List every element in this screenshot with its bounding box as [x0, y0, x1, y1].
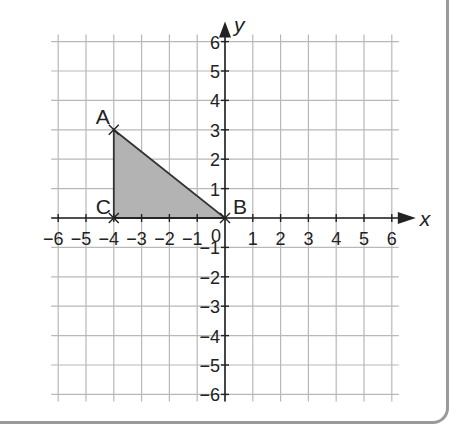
y-tick-label: −6: [199, 385, 220, 405]
point-label-c: C: [96, 195, 111, 218]
y-tick-label: −3: [199, 297, 220, 317]
x-tick-label: 1: [248, 229, 258, 249]
y-tick-label: 5: [210, 62, 220, 82]
y-tick-label: −2: [199, 268, 220, 288]
x-tick-label: −5: [71, 229, 92, 249]
point-label-a: A: [96, 105, 110, 128]
x-tick-label: −2: [154, 229, 175, 249]
point-label-b: B: [233, 195, 247, 218]
y-tick-label: 4: [210, 91, 220, 111]
y-tick-label: 3: [210, 121, 220, 141]
tick-labels: −6−5−4−3−2−11234560654321−1−2−3−4−5−6: [43, 33, 397, 406]
y-tick-label: −1: [199, 238, 220, 258]
x-axis-arrow-icon: [398, 212, 416, 224]
y-tick-label: 6: [210, 33, 220, 53]
x-tick-label: 5: [359, 229, 369, 249]
coordinate-plane: xy −6−5−4−3−2−11234560654321−1−2−3−4−5−6…: [0, 0, 466, 435]
x-tick-label: −3: [126, 229, 147, 249]
y-axis-label: y: [232, 13, 246, 36]
x-tick-label: −6: [43, 229, 64, 249]
y-tick-label: 1: [210, 180, 220, 200]
x-tick-label: −4: [99, 229, 120, 249]
y-tick-label: 2: [210, 150, 220, 170]
y-tick-label: −5: [199, 356, 220, 376]
y-tick-label: −4: [199, 327, 220, 347]
x-tick-label: 2: [276, 229, 286, 249]
x-tick-label: 6: [387, 229, 397, 249]
x-tick-label: 3: [303, 229, 313, 249]
x-tick-label: 4: [331, 229, 341, 249]
x-axis-label: x: [419, 207, 432, 230]
y-axis-arrow-icon: [219, 22, 231, 38]
